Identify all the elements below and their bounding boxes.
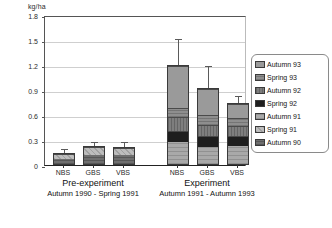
legend-item-label: Spring 93	[267, 74, 297, 82]
bar-segment	[198, 147, 218, 164]
group-label-name: Experiment	[159, 178, 254, 189]
bar	[227, 103, 249, 166]
error-bar-cap	[175, 39, 182, 40]
bar-segment	[84, 155, 104, 164]
x-tick-mark	[93, 165, 94, 168]
legend-swatch-icon	[255, 126, 265, 133]
legend-item-label: Spring 91	[267, 126, 297, 134]
legend-item-label: Autumn 91	[267, 113, 301, 121]
error-bar-cap	[91, 142, 98, 143]
legend-item-label: Autumn 90	[267, 139, 301, 147]
y-axis-tick-labels: 00.30.60.91.21.51.8	[0, 16, 41, 166]
legend-item[interactable]: Spring 91	[255, 123, 325, 136]
x-tick-label: GBS	[86, 169, 101, 176]
legend-swatch-icon	[255, 139, 265, 146]
y-tick-label: 0.3	[28, 138, 38, 145]
error-bar-cap	[205, 66, 212, 67]
y-tick-label: 0.6	[28, 113, 38, 120]
bar-segment	[168, 117, 188, 131]
error-bar	[94, 143, 95, 146]
bar-segment	[114, 155, 134, 164]
legend-item[interactable]: Autumn 90	[255, 136, 325, 149]
bar	[113, 147, 135, 165]
legend-swatch-icon	[255, 61, 265, 68]
legend-item-label: Autumn 93	[267, 61, 301, 69]
bar	[197, 88, 219, 165]
bar-segment	[168, 131, 188, 142]
bar-segment	[228, 146, 248, 165]
bar-segment	[228, 118, 248, 126]
bar-segment	[198, 125, 218, 136]
error-bar-cap	[121, 142, 128, 143]
group-label: ExperimentAutumn 1991 - Autumn 1993	[159, 178, 254, 199]
bar-segment	[54, 159, 74, 165]
legend-swatch-icon	[255, 113, 265, 120]
legend-swatch-icon	[255, 87, 265, 94]
group-label-name: Pre-experiment	[47, 178, 139, 189]
bar-segment	[168, 66, 188, 108]
chart-figure: kg/ha 00.30.60.91.21.51.8 NBSGBSVBSNBSGB…	[0, 0, 332, 228]
x-tick-mark	[123, 165, 124, 168]
chart-legend: Autumn 93Spring 93Autumn 92Spring 92Autu…	[251, 54, 329, 153]
error-bar	[64, 150, 65, 153]
x-tick-label: GBS	[200, 169, 215, 176]
legend-item[interactable]: Autumn 92	[255, 84, 325, 97]
legend-swatch-icon	[255, 74, 265, 81]
legend-swatch-icon	[255, 100, 265, 107]
plot-area	[44, 16, 246, 166]
y-tick-label: 1.8	[28, 13, 38, 20]
bar	[167, 65, 189, 165]
x-tick-mark	[207, 165, 208, 168]
bar	[83, 146, 105, 165]
bar-segment	[84, 147, 104, 155]
error-bar-cap	[235, 96, 242, 97]
y-axis-unit-label: kg/ha	[28, 3, 46, 10]
x-tick-label: VBS	[116, 169, 130, 176]
group-labels: Pre-experimentAutumn 1990 - Spring 1991E…	[0, 178, 332, 212]
x-tick-label: NBS	[56, 169, 70, 176]
legend-item-label: Autumn 92	[267, 87, 301, 95]
y-tick-label: 1.2	[28, 63, 38, 70]
y-tick-label: 0	[34, 163, 38, 170]
legend-item[interactable]: Spring 93	[255, 71, 325, 84]
error-bar	[124, 143, 125, 146]
error-bar	[238, 97, 239, 103]
bar-segment	[228, 104, 248, 119]
group-label: Pre-experimentAutumn 1990 - Spring 1991	[47, 178, 139, 199]
error-bar	[208, 67, 209, 89]
x-tick-label: VBS	[230, 169, 244, 176]
bar-segment	[198, 136, 218, 147]
group-label-period: Autumn 1991 - Autumn 1993	[159, 189, 254, 199]
x-tick-label: NBS	[170, 169, 184, 176]
bar-segment	[168, 108, 188, 116]
group-label-period: Autumn 1990 - Spring 1991	[47, 189, 139, 199]
legend-item-label: Spring 92	[267, 100, 297, 108]
error-bar-cap	[61, 149, 68, 150]
bar	[53, 153, 75, 166]
legend-item[interactable]: Spring 92	[255, 97, 325, 110]
legend-item[interactable]: Autumn 93	[255, 58, 325, 71]
bar-segment	[228, 126, 248, 136]
bar-segment	[198, 89, 218, 115]
x-tick-mark	[237, 165, 238, 168]
x-tick-mark	[63, 165, 64, 168]
y-tick-label: 0.9	[28, 88, 38, 95]
y-tick-label: 1.5	[28, 38, 38, 45]
bar-segment	[114, 148, 134, 155]
bar-segment	[228, 136, 248, 146]
legend-item[interactable]: Autumn 91	[255, 110, 325, 123]
bar-series-container	[45, 17, 245, 165]
error-bar	[178, 40, 179, 65]
bar-segment	[168, 142, 188, 164]
x-tick-mark	[177, 165, 178, 168]
bar-segment	[198, 115, 218, 125]
